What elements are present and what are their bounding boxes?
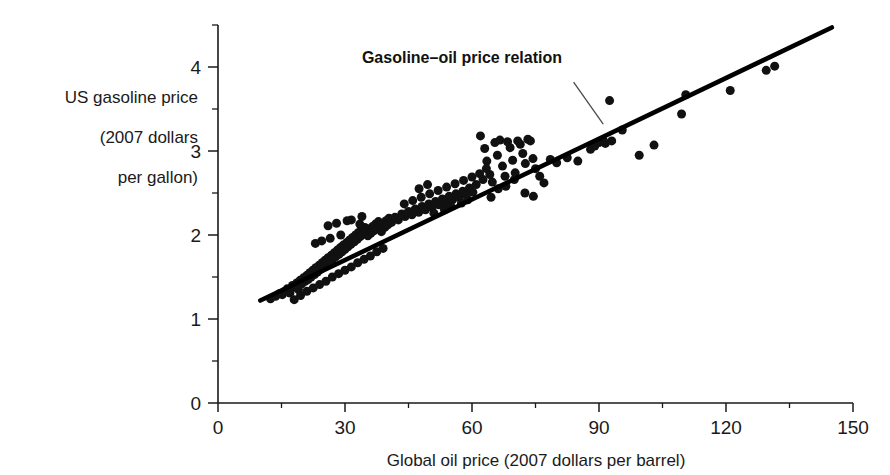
- data-point: [332, 219, 341, 228]
- data-point: [476, 131, 485, 140]
- data-point: [508, 156, 517, 165]
- x-tick-label: 90: [588, 417, 609, 438]
- data-point: [400, 199, 409, 208]
- data-point: [326, 234, 335, 243]
- chart-figure: 0306090120150 01234 Gasoline–oil price r…: [0, 0, 890, 475]
- data-point: [434, 186, 443, 195]
- data-point: [442, 183, 451, 192]
- data-point: [357, 212, 366, 221]
- data-point: [343, 216, 352, 225]
- data-point: [726, 86, 735, 95]
- y-axis-ticks: 01234: [190, 25, 218, 414]
- scatter-points: [266, 62, 779, 305]
- annotation-label: Gasoline–oil price relation: [362, 49, 562, 66]
- y-tick-label: 0: [190, 393, 201, 414]
- data-point: [417, 193, 426, 202]
- x-axis-title: Global oil price (2007 dollars per barre…: [387, 451, 686, 470]
- y-tick-label: 2: [190, 225, 201, 246]
- axes: [218, 25, 853, 403]
- data-point: [539, 178, 548, 187]
- x-tick-label: 150: [837, 417, 869, 438]
- data-point: [521, 159, 530, 168]
- data-point: [607, 136, 616, 145]
- data-point: [650, 141, 659, 150]
- data-point: [425, 189, 434, 198]
- data-point: [408, 196, 417, 205]
- data-point: [488, 178, 497, 187]
- data-point: [635, 151, 644, 160]
- data-point: [451, 179, 460, 188]
- x-tick-label: 0: [213, 417, 224, 438]
- annotation-group: Gasoline–oil price relation: [362, 49, 603, 124]
- data-point: [415, 184, 424, 193]
- x-tick-label: 60: [461, 417, 482, 438]
- data-point: [459, 176, 468, 185]
- data-point: [677, 110, 686, 119]
- y-tick-label: 4: [190, 57, 201, 78]
- data-point: [528, 154, 537, 163]
- fit-line: [260, 28, 832, 301]
- data-point: [605, 96, 614, 105]
- data-point: [355, 220, 364, 229]
- data-point: [529, 192, 538, 201]
- y-axis-title-line-3: per gallon): [118, 168, 198, 187]
- data-point: [336, 231, 345, 240]
- data-point: [526, 136, 535, 145]
- data-point: [480, 144, 489, 153]
- x-tick-label: 120: [710, 417, 742, 438]
- data-point: [520, 189, 529, 198]
- annotation-leader-line: [574, 82, 604, 124]
- scatter-chart: 0306090120150 01234 Gasoline–oil price r…: [0, 0, 890, 475]
- data-point: [324, 221, 333, 230]
- data-point: [423, 180, 432, 189]
- data-point: [573, 157, 582, 166]
- data-point: [495, 136, 504, 145]
- y-tick-label: 1: [190, 309, 201, 330]
- data-point: [493, 151, 502, 160]
- data-point: [518, 149, 527, 158]
- y-axis-title-line-2: (2007 dollars: [100, 128, 198, 147]
- data-point: [317, 236, 326, 245]
- data-point: [506, 143, 515, 152]
- y-axis-title-line-1: US gasoline price: [65, 88, 198, 107]
- x-tick-label: 30: [334, 417, 355, 438]
- data-point: [516, 140, 525, 149]
- trend-line: [260, 28, 832, 301]
- data-point: [501, 172, 510, 181]
- data-point: [498, 162, 507, 171]
- data-point: [482, 157, 491, 166]
- data-point: [762, 66, 771, 75]
- x-axis-ticks: 0306090120150: [213, 403, 869, 438]
- axis-spines: [218, 25, 853, 403]
- y-axis-title: US gasoline price (2007 dollars per gall…: [65, 88, 198, 187]
- data-point: [770, 62, 779, 71]
